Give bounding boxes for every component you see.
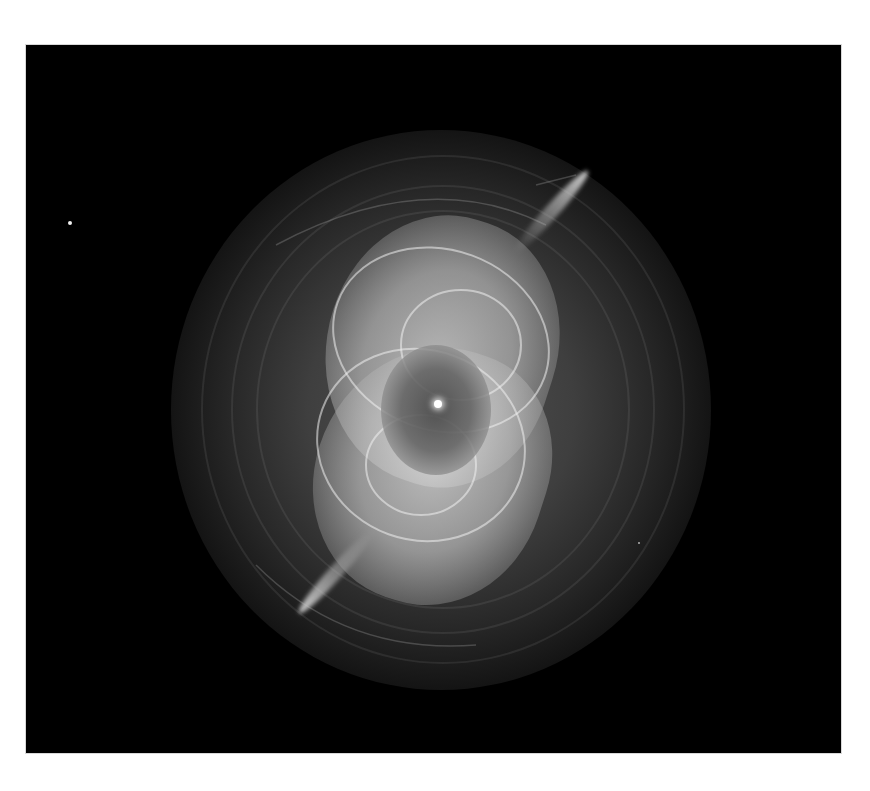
nebula-photo: [26, 45, 841, 753]
filament-structure: [26, 45, 841, 753]
